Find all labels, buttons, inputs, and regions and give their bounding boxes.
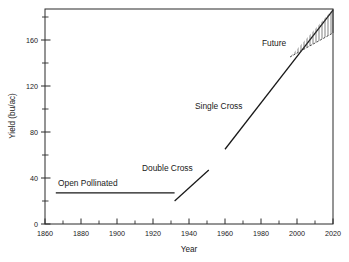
annotation-label-future: Future xyxy=(262,38,287,48)
y-tick-label-80: 80 xyxy=(30,128,38,137)
future-wedge-lower-edge xyxy=(290,33,333,57)
x-tick-label-1940: 1940 xyxy=(181,229,197,238)
y-axis-major-ticks-outer xyxy=(41,40,45,224)
x-tick-label-1960: 1960 xyxy=(217,229,233,238)
series-label-double-cross: Double Cross xyxy=(142,163,193,173)
series-label-single-cross: Single Cross xyxy=(195,101,242,111)
series-line-single-cross xyxy=(225,10,333,149)
x-tick-label-1920: 1920 xyxy=(145,229,161,238)
x-tick-label-2000: 2000 xyxy=(289,229,305,238)
x-tick-label-2020: 2020 xyxy=(325,229,341,238)
x-axis-title: Year xyxy=(181,245,198,254)
y-tick-label-0: 0 xyxy=(34,220,38,229)
chart-figure: 0 40 80 120 160 1860 1880 1900 1920 1940… xyxy=(0,0,349,262)
y-tick-label-160: 160 xyxy=(26,36,38,45)
series-label-open-pollinated: Open Pollinated xyxy=(58,178,118,188)
y-axis-title: Yield (bu/ac) xyxy=(8,93,17,139)
series-line-double-cross xyxy=(175,170,209,201)
plot-frame xyxy=(45,9,333,224)
x-axis-major-ticks xyxy=(45,219,333,225)
x-tick-label-1880: 1880 xyxy=(73,229,89,238)
x-tick-label-1900: 1900 xyxy=(109,229,125,238)
y-tick-label-120: 120 xyxy=(26,82,38,91)
yield-trend-chart: 0 40 80 120 160 1860 1880 1900 1920 1940… xyxy=(0,0,349,262)
future-wedge-hatch xyxy=(292,0,331,70)
y-axis-major-ticks xyxy=(45,40,51,224)
y-tick-label-40: 40 xyxy=(30,174,38,183)
x-tick-label-1980: 1980 xyxy=(253,229,269,238)
x-tick-label-1860: 1860 xyxy=(37,229,53,238)
